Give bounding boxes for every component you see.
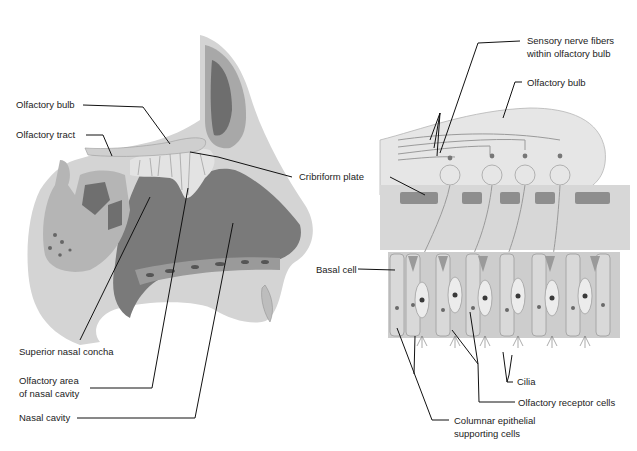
- label-superior-nasal-concha: Superior nasal concha: [19, 346, 114, 358]
- label-basal-cell: Basal cell: [316, 264, 357, 276]
- label-olfactory-bulb-right: Olfactory bulb: [527, 77, 586, 89]
- label-sensory-fibers-line2: within olfactory bulb: [527, 48, 610, 60]
- label-cilia: Cilia: [517, 376, 535, 388]
- label-sensory-fibers-line1: Sensory nerve fibers: [527, 35, 614, 47]
- nasal-section-drawing: [28, 35, 313, 345]
- anatomy-illustration: [0, 0, 637, 451]
- label-cribriform-plate: Cribriform plate: [299, 171, 364, 183]
- label-columnar-line2: supporting cells: [454, 428, 520, 440]
- label-nasal-cavity: Nasal cavity: [19, 412, 70, 424]
- label-olfactory-area-line1: Olfactory area: [19, 375, 79, 387]
- label-olfactory-receptor-cells: Olfactory receptor cells: [518, 397, 615, 409]
- epithelium-drawing: [380, 108, 630, 348]
- label-olfactory-tract: Olfactory tract: [16, 129, 75, 141]
- label-olfactory-area-line2: of nasal cavity: [19, 388, 79, 400]
- label-columnar-line1: Columnar epithelial: [454, 415, 535, 427]
- label-olfactory-bulb-left: Olfactory bulb: [16, 99, 75, 111]
